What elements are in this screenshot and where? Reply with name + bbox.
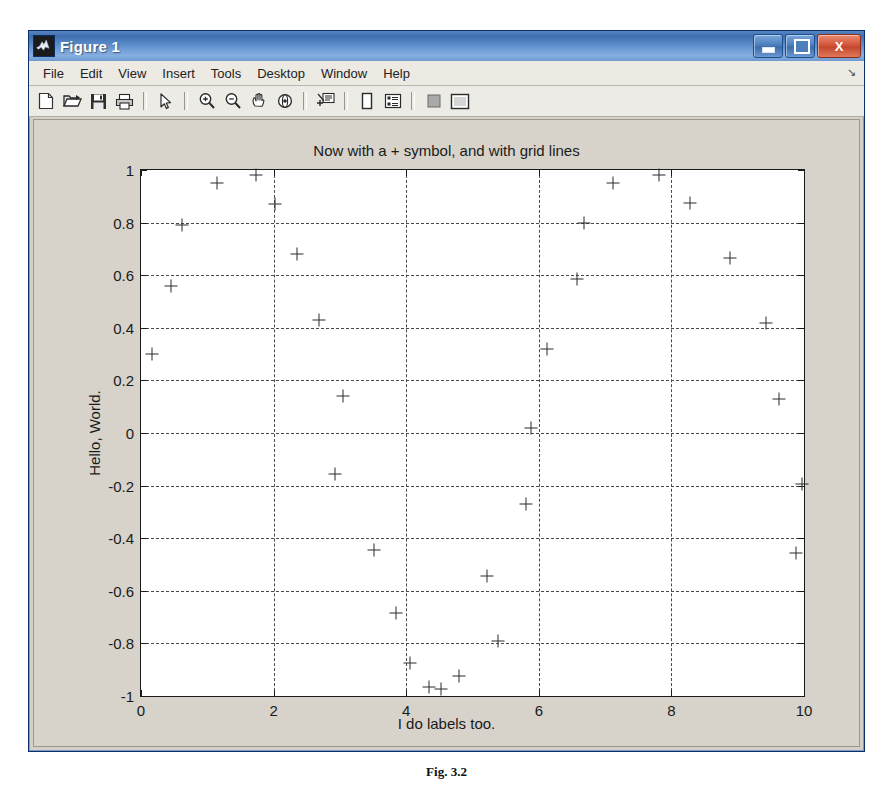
close-button[interactable]: X	[817, 34, 861, 58]
hide-plot-tools-icon[interactable]	[421, 89, 446, 113]
y-axis-tick	[798, 275, 804, 276]
data-point-marker	[423, 680, 436, 693]
y-axis-tick	[141, 538, 147, 539]
gridline-vertical	[539, 170, 540, 696]
data-point-marker	[524, 421, 537, 434]
y-axis-tick	[798, 643, 804, 644]
axes-container: Now with a + symbol, and with grid lines…	[34, 120, 859, 746]
menu-item-help[interactable]: Help	[375, 64, 418, 83]
y-axis-tick	[141, 223, 147, 224]
data-point-marker	[519, 498, 532, 511]
pan-hand-icon[interactable]	[246, 89, 271, 113]
y-tick-label: 0.4	[113, 319, 134, 336]
data-point-marker	[453, 670, 466, 683]
gridline-horizontal	[141, 328, 804, 329]
data-point-marker	[759, 316, 772, 329]
data-point-marker	[146, 348, 159, 361]
y-tick-label: -1	[121, 688, 134, 705]
insert-colorbar-icon[interactable]	[354, 89, 379, 113]
y-axis-tick	[798, 170, 804, 171]
matlab-logo-svg	[36, 39, 51, 52]
y-axis-tick	[798, 591, 804, 592]
data-point-marker	[570, 273, 583, 286]
menu-item-file[interactable]: File	[35, 64, 72, 83]
toolbar	[29, 86, 864, 117]
toolbar-separator	[411, 92, 415, 110]
menubar-overflow-icon[interactable]: ↘	[847, 66, 856, 79]
data-point-marker	[268, 198, 281, 211]
y-axis-tick	[798, 696, 804, 697]
data-point-marker	[607, 177, 620, 190]
figure-window: Figure 1 X File Edit View Insert Tools D…	[28, 30, 865, 752]
y-axis-tick	[798, 486, 804, 487]
plot-axes[interactable]: 024681010.80.60.40.20-0.2-0.4-0.6-0.8-1	[140, 169, 805, 697]
x-axis-tick	[539, 170, 540, 176]
menu-item-edit[interactable]: Edit	[72, 64, 110, 83]
y-tick-label: 0	[126, 425, 134, 442]
gridline-horizontal	[141, 591, 804, 592]
gridline-horizontal	[141, 433, 804, 434]
toolbar-separator	[143, 92, 147, 110]
x-axis-tick	[274, 170, 275, 176]
menu-item-insert[interactable]: Insert	[154, 64, 203, 83]
x-axis-tick	[671, 170, 672, 176]
data-point-marker	[481, 570, 494, 583]
rotate-3d-icon[interactable]	[272, 89, 297, 113]
y-axis-tick	[798, 328, 804, 329]
insert-legend-icon[interactable]	[380, 89, 405, 113]
data-point-marker	[368, 544, 381, 557]
figure-canvas[interactable]: Now with a + symbol, and with grid lines…	[33, 119, 860, 747]
data-cursor-icon[interactable]	[313, 89, 338, 113]
data-point-marker	[312, 313, 325, 326]
y-tick-label: 0.2	[113, 372, 134, 389]
zoom-in-icon[interactable]	[194, 89, 219, 113]
maximize-button[interactable]	[785, 34, 815, 58]
data-point-marker	[434, 683, 447, 696]
menu-item-window[interactable]: Window	[313, 64, 375, 83]
window-title: Figure 1	[60, 38, 753, 55]
menu-item-view[interactable]: View	[110, 64, 154, 83]
data-point-marker	[290, 248, 303, 261]
pointer-arrow-icon[interactable]	[153, 89, 178, 113]
data-point-marker	[723, 252, 736, 265]
data-point-marker	[249, 169, 262, 182]
data-point-marker	[653, 169, 666, 182]
gridline-horizontal	[141, 380, 804, 381]
data-point-marker	[164, 279, 177, 292]
y-axis-tick	[141, 591, 147, 592]
y-axis-tick	[141, 486, 147, 487]
y-axis-tick	[141, 696, 147, 697]
menu-item-desktop[interactable]: Desktop	[249, 64, 313, 83]
new-figure-icon[interactable]	[34, 89, 59, 113]
x-axis-tick	[804, 170, 805, 176]
open-file-icon[interactable]	[60, 89, 85, 113]
menu-item-tools[interactable]: Tools	[203, 64, 249, 83]
gridline-horizontal	[141, 275, 804, 276]
menubar: File Edit View Insert Tools Desktop Wind…	[29, 61, 864, 86]
matlab-logo-icon	[33, 35, 55, 57]
gridline-horizontal	[141, 538, 804, 539]
figure-caption: Fig. 3.2	[0, 764, 893, 780]
gridline-horizontal	[141, 486, 804, 487]
minimize-button[interactable]	[753, 34, 783, 58]
print-figure-icon[interactable]	[112, 89, 137, 113]
save-figure-icon[interactable]	[86, 89, 111, 113]
show-plot-tools-icon[interactable]	[447, 89, 472, 113]
zoom-out-icon[interactable]	[220, 89, 245, 113]
y-axis-label: Hello, World.	[86, 390, 103, 476]
window-titlebar: Figure 1 X	[29, 31, 864, 61]
y-axis-tick	[798, 223, 804, 224]
y-axis-tick	[141, 170, 147, 171]
plot-title: Now with a + symbol, and with grid lines	[34, 142, 859, 159]
toolbar-separator	[303, 92, 307, 110]
data-point-marker	[211, 177, 224, 190]
y-axis-tick	[141, 433, 147, 434]
x-axis-tick	[406, 170, 407, 176]
maximize-icon	[794, 39, 810, 54]
data-point-marker	[773, 392, 786, 405]
y-axis-tick	[798, 380, 804, 381]
y-axis-tick	[141, 328, 147, 329]
data-point-marker	[390, 607, 403, 620]
y-tick-label: 0.8	[113, 214, 134, 231]
y-axis-tick	[141, 643, 147, 644]
